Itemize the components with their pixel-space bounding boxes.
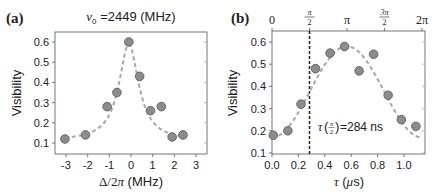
y-tick-label: 0.3: [251, 103, 266, 115]
data-point: [103, 102, 112, 111]
panel-b-label: (b): [231, 10, 249, 27]
x-tick-label: 0.2: [291, 159, 306, 171]
x-tick-label: 0: [128, 159, 134, 171]
panel-b-top-axis-ticks: 0π2π3π22π: [269, 8, 428, 31]
data-point: [297, 100, 306, 109]
x-tick-label: -3: [61, 159, 71, 171]
top-tick-label: 3π: [379, 8, 389, 17]
svg-text:): ): [335, 119, 339, 134]
y-tick-label: 0.5: [251, 58, 266, 70]
panel-a: (a) ν0 =2449 (MHz) 0.10.20.30.40.50.6 -3…: [6, 9, 207, 189]
y-tick-label: 0.4: [251, 80, 266, 92]
panel-b-annotation: τ(π2) =284 ns: [318, 119, 383, 136]
panel-b-x-ticks: 0.00.20.40.60.81.0: [264, 154, 411, 171]
data-point: [355, 67, 364, 76]
figure: (a) ν0 =2449 (MHz) 0.10.20.30.40.50.6 -3…: [0, 0, 445, 195]
data-point: [157, 102, 166, 111]
x-tick-label: 1: [150, 159, 156, 171]
data-point: [135, 72, 144, 81]
panel-a-x-label: Δ/2π (MHz): [99, 174, 163, 189]
x-tick-label: 2: [171, 159, 177, 171]
x-tick-label: -2: [83, 159, 93, 171]
panel-b-x-label: τ (μs): [334, 174, 364, 189]
x-tick-label: 3: [193, 159, 199, 171]
svg-text:2: 2: [330, 128, 334, 136]
data-point: [125, 38, 134, 47]
data-point: [168, 133, 177, 142]
top-tick-label: π: [344, 13, 350, 27]
top-tick-label: 2π: [416, 13, 428, 27]
data-point: [384, 91, 393, 100]
data-point: [81, 131, 90, 140]
data-point: [311, 64, 320, 73]
data-point: [340, 42, 349, 51]
panel-b-frame: [272, 31, 425, 154]
data-point: [61, 135, 70, 144]
x-tick-label: 1.0: [396, 159, 411, 171]
data-point: [284, 127, 293, 136]
y-tick-label: 0.2: [34, 117, 49, 129]
svg-text:τ: τ: [318, 120, 323, 134]
x-tick-label: 0.4: [317, 159, 332, 171]
top-tick-label: 2: [382, 18, 386, 27]
panel-b-y-label: Visibility: [225, 69, 240, 116]
x-tick-label: 0.6: [344, 159, 359, 171]
x-tick-label: 0.8: [370, 159, 385, 171]
svg-text:=284 ns: =284 ns: [340, 120, 383, 134]
panel-a-x-ticks: -3-2-10123: [61, 154, 199, 171]
data-point: [113, 88, 122, 97]
x-tick-label: 0.0: [264, 159, 279, 171]
panel-b: (b) 0π2π3π22π 0.10.20.30.40.50.6 0.00.20…: [225, 8, 428, 189]
top-tick-label: 0: [269, 13, 275, 27]
panel-a-title: ν0 =2449 (MHz): [86, 9, 175, 26]
y-tick-label: 0.3: [34, 97, 49, 109]
y-tick-label: 0.5: [34, 56, 49, 68]
panel-b-y-ticks: 0.10.20.30.40.50.6: [251, 36, 425, 159]
data-point: [179, 131, 188, 140]
y-tick-label: 0.6: [251, 36, 266, 48]
panel-a-y-label: Visibility: [9, 69, 24, 116]
y-tick-label: 0.1: [251, 147, 266, 159]
y-tick-label: 0.2: [251, 125, 266, 137]
y-tick-label: 0.1: [34, 137, 49, 149]
svg-text:(: (: [324, 119, 329, 134]
y-tick-label: 0.4: [34, 76, 49, 88]
data-point: [412, 122, 421, 131]
top-tick-label: 2: [307, 18, 311, 27]
panel-a-fit-curve: [65, 44, 183, 138]
top-tick-label: π: [307, 8, 312, 17]
data-point: [326, 49, 335, 58]
data-point: [397, 115, 406, 124]
data-point: [146, 106, 155, 115]
data-point: [269, 131, 278, 140]
data-point: [369, 50, 378, 59]
panel-a-label: (a): [6, 10, 24, 27]
y-tick-label: 0.6: [34, 36, 49, 48]
x-tick-label: -1: [104, 159, 114, 171]
